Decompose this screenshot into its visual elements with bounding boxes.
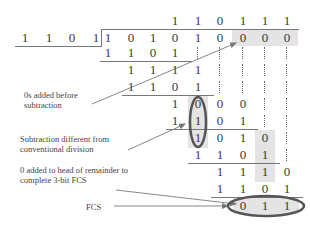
quotient-digit: 0 bbox=[212, 14, 228, 28]
placeholder-dots bbox=[242, 64, 245, 76]
placeholder-dots bbox=[242, 81, 245, 93]
row-digit: 1 bbox=[145, 80, 161, 94]
placeholder-dots bbox=[264, 115, 267, 127]
quotient-digit: 1 bbox=[167, 14, 183, 28]
placeholder-dots bbox=[264, 47, 267, 59]
row-digit: 1 bbox=[123, 46, 139, 60]
dividend-digit: 0 bbox=[257, 31, 273, 45]
placeholder-dots bbox=[219, 47, 222, 59]
placeholder-dots bbox=[286, 98, 289, 110]
row-digit: 1 bbox=[190, 148, 206, 162]
row-digit: 1 bbox=[257, 165, 273, 179]
quotient-digit: 1 bbox=[190, 14, 206, 28]
divisor-digit: 1 bbox=[17, 31, 33, 45]
row-digit: 1 bbox=[190, 114, 206, 128]
row-digit: 1 bbox=[190, 63, 206, 77]
quotient-digit: 1 bbox=[279, 14, 295, 28]
row-digit: 0 bbox=[235, 97, 251, 111]
quotient-digit: 1 bbox=[257, 14, 273, 28]
row-digit: 0 bbox=[212, 131, 228, 145]
row-digit: 1 bbox=[235, 131, 251, 145]
dividend-digit: 1 bbox=[100, 31, 116, 45]
row-digit: 0 bbox=[257, 182, 273, 196]
placeholder-dots bbox=[197, 47, 200, 59]
row-digit: 0 bbox=[212, 97, 228, 111]
placeholder-dots bbox=[264, 64, 267, 76]
placeholder-dots bbox=[286, 115, 289, 127]
row-digit: 1 bbox=[167, 46, 183, 60]
row-digit: 0 bbox=[257, 131, 273, 145]
row-digit: 1 bbox=[100, 46, 116, 60]
divisor-digit: 0 bbox=[64, 31, 80, 45]
dividend-digit: 1 bbox=[190, 31, 206, 45]
row-digit: 0 bbox=[212, 114, 228, 128]
placeholder-dots bbox=[286, 81, 289, 93]
placeholder-dots bbox=[219, 64, 222, 76]
row-digit: 1 bbox=[167, 114, 183, 128]
dividend-digit: 0 bbox=[212, 31, 228, 45]
placeholder-dots bbox=[286, 149, 289, 161]
row-digit: 1 bbox=[145, 63, 161, 77]
row-digit: 1 bbox=[190, 131, 206, 145]
row-digit: 0 bbox=[235, 148, 251, 162]
row-digit: 1 bbox=[235, 114, 251, 128]
row-digit: 1 bbox=[190, 80, 206, 94]
divisor-digit: 1 bbox=[41, 31, 57, 45]
row-digit: 1 bbox=[279, 182, 295, 196]
row-digit: 0 bbox=[279, 165, 295, 179]
dividend-digit: 0 bbox=[123, 31, 139, 45]
row-digit: 1 bbox=[167, 97, 183, 111]
placeholder-dots bbox=[264, 98, 267, 110]
dividend-digit: 1 bbox=[145, 31, 161, 45]
row-digit: 1 bbox=[235, 182, 251, 196]
quotient-digit: 1 bbox=[235, 14, 251, 28]
placeholder-dots bbox=[286, 47, 289, 59]
placeholder-dots bbox=[286, 132, 289, 144]
placeholder-dots bbox=[219, 81, 222, 93]
dividend-digit: 0 bbox=[235, 31, 251, 45]
row-digit: 1 bbox=[257, 199, 273, 213]
row-digit: 1 bbox=[212, 165, 228, 179]
placeholder-dots bbox=[264, 81, 267, 93]
row-digit: 0 bbox=[235, 199, 251, 213]
row-digit: 1 bbox=[123, 80, 139, 94]
row-digit: 1 bbox=[235, 165, 251, 179]
dividend-digit: 0 bbox=[279, 31, 295, 45]
placeholder-dots bbox=[242, 47, 245, 59]
row-digit: 1 bbox=[167, 63, 183, 77]
row-digit: 1 bbox=[123, 63, 139, 77]
row-digit: 0 bbox=[145, 46, 161, 60]
crc-division-diagram: 0s added before subtraction Subtraction … bbox=[0, 0, 310, 231]
dividend-digit: 0 bbox=[167, 31, 183, 45]
row-digit: 1 bbox=[279, 199, 295, 213]
placeholder-dots bbox=[286, 64, 289, 76]
row-digit: 1 bbox=[212, 182, 228, 196]
row-digit: 0 bbox=[190, 97, 206, 111]
row-digit: 1 bbox=[212, 148, 228, 162]
row-digit: 1 bbox=[257, 148, 273, 162]
row-digit: 0 bbox=[167, 80, 183, 94]
